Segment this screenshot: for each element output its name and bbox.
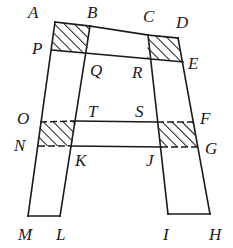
label-f: F [200, 110, 210, 127]
label-o: O [17, 110, 29, 127]
label-t: T [88, 103, 97, 120]
label-r: R [132, 64, 142, 81]
label-m: M [18, 226, 32, 243]
label-c: C [143, 8, 154, 25]
label-k: K [75, 152, 86, 169]
shaded-region-abqp [52, 22, 90, 53]
label-g: G [205, 140, 217, 157]
label-a: A [28, 4, 38, 21]
label-p: P [32, 40, 42, 57]
label-d: D [176, 14, 188, 31]
edge-kj [72, 146, 161, 147]
label-b: B [87, 4, 97, 21]
label-e: E [188, 55, 198, 72]
shaded-region-otkn [38, 121, 76, 146]
label-q: Q [90, 62, 102, 79]
label-s: S [135, 103, 144, 120]
label-j: J [146, 152, 154, 169]
edge-bc [90, 26, 148, 35]
diagram-figure [0, 0, 233, 248]
geometry-diagram: A B C D E P Q R O T S F N K J G M L I H [0, 0, 233, 248]
label-n: N [14, 137, 25, 154]
label-h: H [209, 226, 221, 243]
label-l: L [56, 226, 65, 243]
edge-ts [76, 121, 157, 122]
shaded-region-sfgj [157, 122, 198, 147]
label-i: I [163, 226, 169, 243]
